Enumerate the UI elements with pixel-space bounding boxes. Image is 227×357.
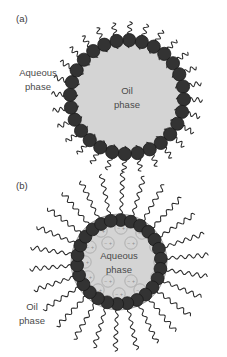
- surfactant-head-group: [176, 80, 189, 93]
- surfactant-head-group: [173, 68, 186, 81]
- ion-positive-sign: +: [91, 244, 94, 250]
- surfactant-head-group: [63, 88, 76, 101]
- panel-a-center-label-line2: phase: [114, 99, 140, 110]
- panel-a-center-label-line1: Oil: [121, 85, 133, 96]
- surfactant-head-group: [118, 147, 131, 160]
- surfactant-head-group: [110, 34, 123, 47]
- surfactant-head-group: [135, 35, 148, 48]
- panel-a-label: (a): [16, 13, 28, 24]
- ion-positive-sign: +: [132, 278, 135, 284]
- micelle-diagram: (a) Oil phase Aqueous phase (b) −+−+−+−+…: [0, 0, 227, 357]
- ion-negative-sign: −: [104, 240, 107, 246]
- ion-positive-sign: +: [109, 278, 112, 284]
- surfactant-head-group: [175, 105, 188, 118]
- ion-positive-sign: +: [120, 291, 123, 297]
- surfactant-head-group: [65, 76, 78, 89]
- surfactant-head-group: [143, 143, 156, 156]
- surfactant-head-group: [64, 101, 77, 114]
- panel-a-outer-label-line2: phase: [25, 81, 51, 92]
- surfactant-head-group: [98, 38, 111, 51]
- panel-b-center-label-line2: phase: [106, 264, 132, 275]
- ion-negative-sign: −: [104, 278, 107, 284]
- panel-b-center-label-line1: Aqueous: [100, 250, 138, 261]
- ion-negative-sign: −: [136, 287, 139, 293]
- surfactant-head-group: [123, 33, 136, 46]
- surfactant-head-group: [104, 214, 117, 227]
- panel-b-label: (b): [16, 180, 28, 191]
- panel-b-outer-label-line2: phase: [19, 315, 45, 326]
- surfactant-head-group: [177, 93, 190, 106]
- ion-positive-sign: +: [89, 274, 92, 280]
- surfactant-head-group: [68, 113, 81, 126]
- surfactant-head-group: [131, 146, 144, 159]
- ion-negative-sign: −: [127, 278, 130, 284]
- ion-positive-sign: +: [86, 259, 89, 265]
- ion-positive-sign: +: [132, 240, 135, 246]
- panel-a-outer-label-line1: Aqueous: [19, 67, 57, 78]
- ion-negative-sign: −: [127, 240, 130, 246]
- surfactant-head-group: [106, 145, 119, 158]
- ion-negative-sign: −: [115, 291, 118, 297]
- ion-positive-sign: +: [109, 240, 112, 246]
- panel-b-outer-label-line1: Oil: [26, 301, 38, 312]
